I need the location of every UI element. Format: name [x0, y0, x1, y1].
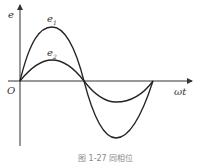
svg-text:2: 2: [52, 53, 57, 60]
origin-label: O: [7, 85, 15, 96]
curve-e1-label: e 1: [47, 13, 57, 26]
y-axis-label: e: [8, 9, 14, 20]
curve-e1: [20, 27, 153, 138]
svg-text:1: 1: [53, 19, 57, 26]
curve-e2-label: e 2: [47, 47, 57, 60]
x-axis-label: ωt: [174, 86, 187, 97]
figure-caption: 图 1-27 同相位: [78, 153, 133, 163]
waveform-diagram: e O ωt e 1 e 2 图 1-27 同相位: [0, 0, 197, 164]
